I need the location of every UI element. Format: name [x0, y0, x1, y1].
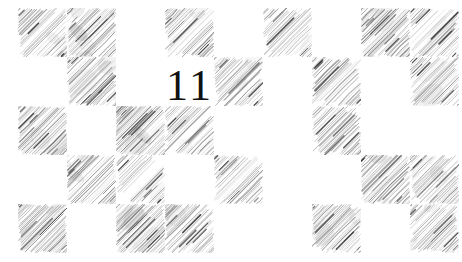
- hatch-cell-r4-c2: [116, 204, 165, 253]
- hatch-cell-r1-c4: [214, 57, 263, 106]
- hatch-cell-r3-c1: [67, 155, 116, 204]
- hatch-cell-r1-c8: [410, 57, 459, 106]
- hatch-cell-r0-c7: [361, 8, 410, 57]
- page-number: 11: [166, 64, 214, 108]
- hatch-cell-r0-c5: [263, 8, 312, 57]
- hatch-cell-r1-c1: [67, 57, 116, 106]
- hatch-cell-r0-c0: [18, 8, 67, 57]
- hatch-cell-r3-c7: [361, 155, 410, 204]
- hatch-cell-r2-c2: [116, 106, 165, 155]
- hatch-cell-r1-c6: [312, 57, 361, 106]
- hatch-cell-r3-c4: [214, 155, 263, 204]
- hatch-cell-r0-c1: [67, 8, 116, 57]
- hatch-cell-r2-c6: [312, 106, 361, 155]
- hatch-cell-r4-c0: [18, 204, 67, 253]
- hatch-cell-r4-c3: [165, 204, 214, 253]
- hatch-cell-r3-c2: [116, 155, 165, 204]
- hatch-cell-r0-c3: [165, 8, 214, 57]
- hatch-cell-r3-c8: [410, 155, 459, 204]
- hatch-cell-r2-c0: [18, 106, 67, 155]
- hatch-cell-r0-c8: [410, 8, 459, 57]
- hatch-checkerboard-grid: [0, 0, 462, 262]
- hatch-cell-r4-c8: [410, 204, 459, 253]
- hatch-cell-r2-c3: [165, 106, 214, 155]
- page-canvas: 11: [0, 0, 462, 262]
- hatch-cell-r4-c6: [312, 204, 361, 253]
